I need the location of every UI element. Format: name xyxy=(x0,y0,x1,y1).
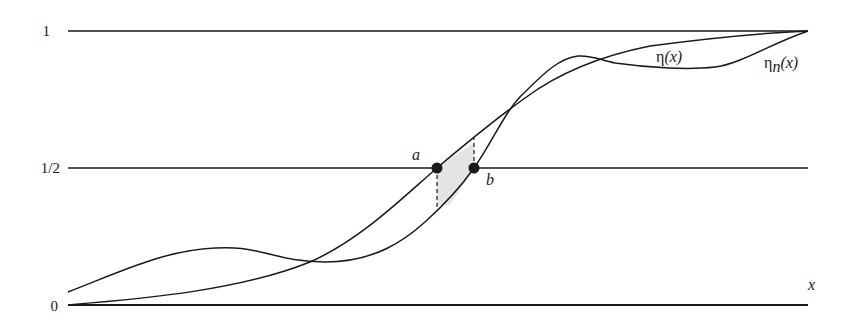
y-tick-half: 1/2 xyxy=(41,160,60,176)
point-b-label: b xyxy=(486,171,494,188)
curve-eta-n-label: ηn(x) xyxy=(764,54,798,75)
y-tick-0: 0 xyxy=(51,298,59,314)
eta-n-subscript: n xyxy=(772,58,780,75)
eta-n-arg: (x) xyxy=(780,54,798,72)
point-b-marker xyxy=(469,163,480,174)
curve-eta-label: η(x) xyxy=(656,48,682,66)
x-axis-label: x xyxy=(807,276,815,293)
eta-symbol: η xyxy=(656,48,664,66)
point-a-marker xyxy=(432,163,443,174)
diagram-canvas: 1 1/2 0 a b x η(x) ηn(x) xyxy=(0,0,852,328)
y-tick-1: 1 xyxy=(43,23,51,39)
curve-eta-n xyxy=(68,31,808,292)
point-a-label: a xyxy=(412,146,420,163)
eta-n-symbol: η xyxy=(764,54,772,72)
eta-arg: (x) xyxy=(664,48,682,66)
